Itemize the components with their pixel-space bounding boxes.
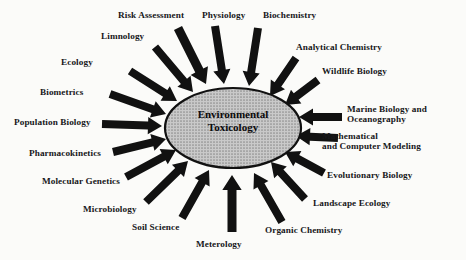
arrow-landscape-ecology — [271, 162, 308, 202]
node-label-meterology: Meterology — [196, 239, 242, 249]
arrow-wildlife-biology — [285, 77, 320, 105]
center-label-line-2: Toxicology — [208, 121, 258, 133]
node-label-pharmacokinetics: Pharmacokinetics — [29, 148, 101, 158]
arrow-marine-biology-oceanography — [299, 108, 342, 125]
node-label-microbiology: Microbiology — [83, 204, 137, 214]
node-label-biometrics: Biometrics — [40, 87, 83, 97]
arrow-analytical-chemistry — [270, 56, 299, 96]
center-label-line-1: Environmental — [198, 108, 269, 120]
arrow-population-biology — [102, 117, 162, 134]
arrow-organic-chemistry — [253, 173, 285, 224]
node-label-evolutionary-biology: Evolutionary Biology — [327, 170, 412, 180]
arrow-biometrics — [109, 90, 166, 117]
node-label-analytical-chemistry: Analytical Chemistry — [296, 42, 382, 52]
arrow-soil-science — [179, 170, 210, 220]
center-node-label: EnvironmentalToxicology — [170, 108, 296, 134]
node-label-limnology: Limnology — [101, 31, 144, 41]
node-label-population-biology: Population Biology — [14, 117, 91, 127]
diagram-canvas: EnvironmentalToxicology Risk AssessmentP… — [0, 0, 466, 260]
node-label-wildlife-biology: Wildlife Biology — [322, 66, 387, 76]
arrow-ecology — [128, 68, 177, 101]
node-label-landscape-ecology: Landscape Ecology — [313, 198, 391, 208]
arrow-evolutionary-biology — [285, 151, 326, 176]
node-label-molecular-genetics: Molecular Genetics — [42, 176, 120, 186]
arrow-pharmacokinetics — [112, 134, 166, 156]
arrow-biochemistry — [243, 27, 262, 86]
node-label-soil-science: Soil Science — [132, 222, 179, 232]
node-label-organic-chemistry: Organic Chemistry — [265, 225, 342, 235]
node-label-biochemistry: Biochemistry — [263, 10, 316, 20]
arrow-meterology — [222, 175, 241, 232]
node-label-ecology: Ecology — [61, 57, 93, 67]
node-label-physiology: Physiology — [202, 10, 245, 20]
node-label-mathematical-computer-modeling: Mathematical and Computer Modeling — [322, 131, 421, 152]
arrow-physiology — [211, 25, 230, 84]
node-label-risk-assessment: Risk Assessment — [118, 10, 184, 20]
node-label-marine-biology-oceanography: Marine Biology and Oceanography — [347, 104, 427, 125]
